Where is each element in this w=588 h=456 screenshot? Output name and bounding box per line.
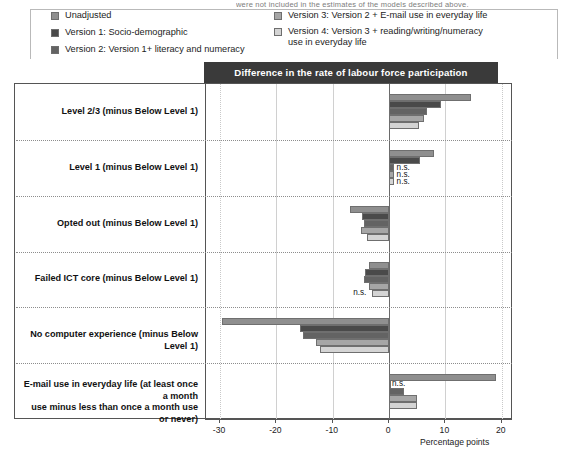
x-tick--20 (275, 419, 276, 423)
category-label: Level 2/3 (minus Below Level 1) (22, 106, 198, 118)
legend-item-unadjusted: Unadjusted (51, 10, 245, 21)
bar (389, 122, 419, 129)
chart-page: were not included in the estimates of th… (0, 0, 588, 456)
bar (389, 171, 394, 178)
significance-label: n.s. (397, 178, 410, 186)
legend-column-2: Version 3: Version 2 + E-mail use in eve… (274, 10, 487, 53)
bar (389, 150, 434, 157)
x-axis-title: Percentage points (420, 437, 489, 447)
bar (369, 283, 389, 290)
legend-item-v2: Version 2: Version 1+ literacy and numer… (51, 44, 245, 55)
x-tick-label: 20 (496, 425, 506, 435)
legend-item-v4: Version 4: Version 3 + reading/writing/n… (274, 26, 487, 48)
legend-swatch-v4 (274, 28, 282, 36)
category-label: Opted out (minus Below Level 1) (22, 218, 198, 230)
category-label: Failed ICT core (minus Below Level 1) (22, 273, 198, 285)
bar (303, 332, 389, 339)
bar (361, 227, 389, 234)
category-label: E-mail use in everyday life (at least on… (22, 379, 198, 425)
plot-area: Level 2/3 (minus Below Level 1)Level 1 (… (205, 84, 512, 419)
page-top-text: were not included in the estimates of th… (236, 0, 588, 9)
legend-swatch-v1 (51, 29, 59, 37)
chart-legend: UnadjustedVersion 1: Socio-demographicVe… (30, 9, 558, 59)
legend-label-v1: Version 1: Socio-demographic (65, 27, 188, 38)
x-tick-label: -10 (326, 425, 338, 435)
bar (389, 381, 391, 388)
legend-swatch-unadjusted (51, 12, 59, 20)
bar (369, 262, 389, 269)
bar (362, 213, 389, 220)
bar (365, 269, 389, 276)
x-axis-line (205, 419, 512, 420)
x-tick-label: 0 (386, 425, 391, 435)
legend-swatch-v3 (274, 12, 282, 20)
bar (389, 108, 427, 115)
legend-swatch-v2 (51, 46, 59, 54)
x-tick--10 (332, 419, 333, 423)
bar (389, 388, 404, 395)
legend-item-v1: Version 1: Socio-demographic (51, 27, 245, 38)
x-tick-20 (501, 419, 502, 423)
row-separator (16, 140, 512, 141)
x-tick-10 (444, 419, 445, 423)
row-separator (16, 363, 512, 364)
chart-title: Difference in the rate of labour force p… (204, 62, 498, 83)
category-label: Level 1 (minus Below Level 1) (22, 162, 198, 174)
x-tick-0 (388, 419, 389, 423)
bar (389, 395, 417, 402)
x-tick-label: -20 (269, 425, 281, 435)
legend-label-v2: Version 2: Version 1+ literacy and numer… (65, 44, 245, 55)
chart-frame: Level 2/3 (minus Below Level 1)Level 1 (… (14, 83, 512, 419)
bar (364, 276, 389, 283)
legend-label-unadjusted: Unadjusted (65, 10, 111, 21)
bar (389, 164, 394, 171)
category-label: No computer experience (minus Below Leve… (22, 329, 198, 352)
legend-label-v3: Version 3: Version 2 + E-mail use in eve… (288, 10, 487, 21)
significance-label: n.s. (353, 289, 366, 297)
legend-item-v3: Version 3: Version 2 + E-mail use in eve… (274, 10, 487, 21)
bar (389, 402, 417, 409)
bar (367, 234, 390, 241)
bar (316, 339, 389, 346)
row-separator (16, 252, 512, 253)
x-tick-label: 10 (440, 425, 450, 435)
legend-column-1: UnadjustedVersion 1: Socio-demographicVe… (51, 10, 245, 61)
bar (222, 318, 389, 325)
x-tick--30 (219, 419, 220, 423)
x-tick-label: -30 (213, 425, 225, 435)
legend-label-v4: Version 4: Version 3 + reading/writing/n… (288, 26, 483, 48)
bar (389, 101, 441, 108)
bar (364, 220, 389, 227)
bar (372, 290, 389, 297)
bar (320, 346, 389, 353)
bar (389, 94, 471, 101)
bar (350, 206, 389, 213)
bar (389, 115, 424, 122)
bar (300, 325, 390, 332)
row-separator (16, 196, 512, 197)
bar (389, 178, 394, 185)
row-separator (16, 307, 512, 308)
